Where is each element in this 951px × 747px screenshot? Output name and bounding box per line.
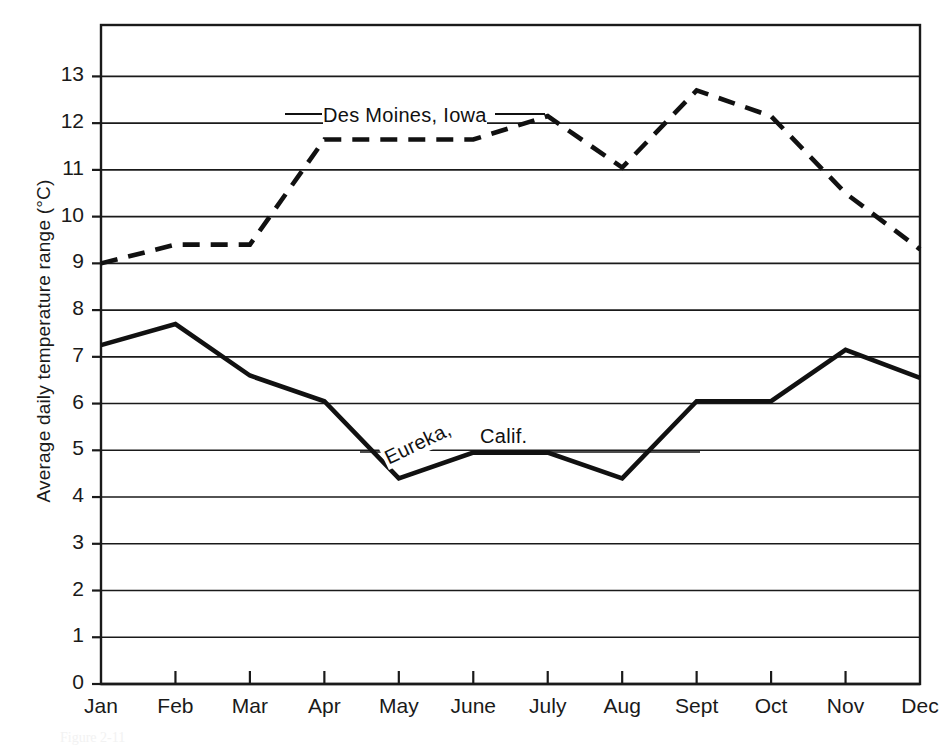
y-tick-label: 13: [44, 62, 84, 86]
series-label-eureka-state: Calif.: [480, 425, 527, 448]
series-line-des-moines-iowa: [101, 90, 920, 263]
y-tick-label: 10: [44, 203, 84, 227]
figure-root: Average daily temperature range (°C) 012…: [0, 0, 951, 747]
y-tick-label: 12: [44, 109, 84, 133]
series-line-eureka-calif: [101, 324, 920, 478]
y-tick-label: 1: [44, 623, 84, 647]
y-tick-label: 4: [44, 483, 84, 507]
y-tick-label: 9: [44, 249, 84, 273]
annotation-leader-lines: [285, 114, 700, 452]
y-tick-label: 3: [44, 530, 84, 554]
series-label-des-moines: Des Moines, Iowa: [323, 104, 487, 127]
y-tick-label: 5: [44, 436, 84, 460]
y-tick-label: 11: [44, 156, 84, 180]
y-tick-label: 8: [44, 296, 84, 320]
y-tick-label: 2: [44, 577, 84, 601]
y-tick-label: 6: [44, 390, 84, 414]
data-series-group: [101, 90, 920, 478]
x-tick-label: Dec: [875, 694, 951, 718]
gridlines-group: [101, 76, 920, 684]
x-tick-marks: [92, 76, 846, 684]
figure-caption: Figure 2-11: [60, 730, 125, 746]
y-tick-label: 0: [44, 670, 84, 694]
y-tick-label: 7: [44, 343, 84, 367]
